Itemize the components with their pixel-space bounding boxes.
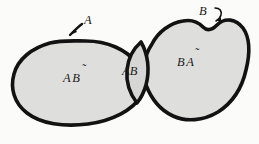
left-region-base: A — [62, 71, 71, 85]
set-a-callout-label: A — [83, 13, 92, 27]
left-region-complement: B — [72, 71, 80, 85]
intersection-region-label: AB — [121, 64, 138, 78]
right-region-complement: A — [185, 55, 194, 69]
set-b-blob — [144, 20, 249, 120]
right-only-region-label: BA — [177, 55, 194, 69]
right-region-base: B — [177, 55, 185, 69]
set-b-callout-label: B — [199, 4, 207, 18]
venn-diagram-figure: AB ˜ AB BA ˜ A B — [0, 0, 259, 144]
